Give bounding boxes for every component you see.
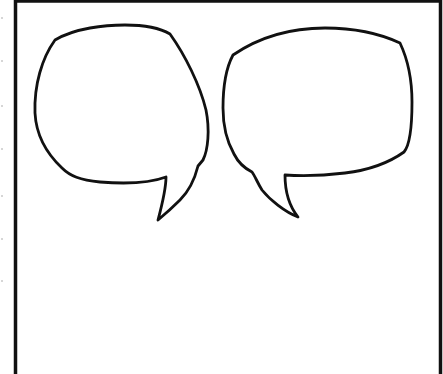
comic-panel (0, 0, 443, 374)
speech-bubble-left (35, 25, 208, 220)
speech-bubble-right (223, 28, 412, 217)
panel-drawing (0, 0, 443, 374)
